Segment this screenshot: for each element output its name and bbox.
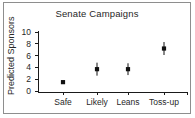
data-point-marker bbox=[126, 67, 130, 71]
chart-figure: Senate Campaigns Predicted Sponsors 0246… bbox=[3, 2, 191, 114]
data-point-marker bbox=[61, 80, 65, 84]
plot-surface: Senate Campaigns Predicted Sponsors 0246… bbox=[4, 3, 190, 113]
data-series bbox=[61, 42, 166, 84]
plot-svg bbox=[4, 3, 192, 115]
data-point-marker bbox=[95, 67, 99, 71]
data-point-marker bbox=[162, 46, 166, 50]
